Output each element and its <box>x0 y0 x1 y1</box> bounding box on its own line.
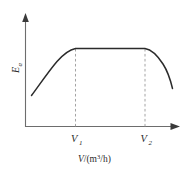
efficiency-curve <box>32 48 173 95</box>
xtick-label-v2-subscript: 2 <box>149 139 153 147</box>
xtick-label-v2: V <box>141 133 149 144</box>
xtick-label-v1: V <box>71 133 79 144</box>
xtick-label-v1-subscript: 1 <box>79 139 83 147</box>
y-axis-title: E <box>10 67 21 74</box>
x-axis-title-unit-tail: /h) <box>100 154 111 165</box>
y-axis-title-subscript: a <box>16 63 23 67</box>
chart-figure: V 1 V 2 V/(m3/h) E a <box>0 0 194 169</box>
y-axis-title-group: E a <box>10 63 23 74</box>
y-axis-arrowhead <box>22 13 29 22</box>
x-axis-title: V/(m3/h) <box>78 153 111 165</box>
x-axis-arrowhead <box>171 123 181 130</box>
plot-canvas: V 1 V 2 V/(m3/h) E a <box>0 0 194 169</box>
x-axis-title-unit-head: /(m <box>84 154 98 165</box>
